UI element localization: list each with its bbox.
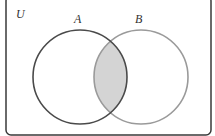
set-b-label: B — [135, 12, 143, 26]
universe-label: U — [16, 7, 26, 21]
venn-diagram: U A B — [0, 0, 215, 136]
set-a-label: A — [73, 12, 82, 26]
